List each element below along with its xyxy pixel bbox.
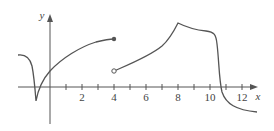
x-tick-label: 12: [237, 91, 248, 103]
y-axis-arrow-icon: [47, 14, 53, 22]
x-tick-label: 6: [143, 91, 149, 103]
x-tick-label: 4: [111, 91, 117, 103]
x-tick-label: 10: [205, 91, 217, 103]
curve-left-piece: [18, 39, 114, 101]
x-axis-label: x: [255, 90, 261, 102]
y-axis-label: y: [39, 9, 45, 21]
filled-endpoint-dot: [112, 37, 116, 41]
open-endpoint-dot: [112, 69, 116, 73]
x-tick-label: 2: [79, 91, 85, 103]
function-graph: 2 4 6 8 10 12 x y: [0, 0, 274, 131]
x-tick-label: 8: [175, 91, 181, 103]
